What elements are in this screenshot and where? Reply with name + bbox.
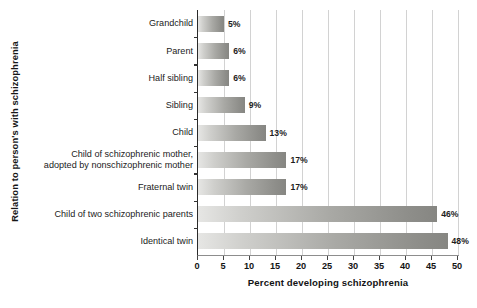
y-axis-title: Relation to person's with schizophrenia: [0, 0, 28, 262]
bar-chart: Relation to person's with schizophrenia …: [0, 0, 477, 308]
y-axis-tick: [194, 64, 198, 65]
bar: [198, 179, 286, 195]
bar-value-label: 6%: [233, 70, 245, 86]
category-label: Fraternal twin: [30, 182, 193, 192]
x-axis-tick-labels: 05101520253035404550: [0, 261, 477, 275]
x-axis-tick: [197, 256, 198, 260]
y-axis-title-text: Relation to person's with schizophrenia: [9, 41, 20, 222]
y-axis-tick: [194, 173, 198, 174]
category-label-list: GrandchildParentHalf siblingSiblingChild…: [30, 10, 193, 255]
bar-value-label: 46%: [441, 206, 458, 222]
bar: [198, 97, 245, 113]
bar-value-label: 6%: [233, 43, 245, 59]
bar-value-label: 9%: [249, 97, 261, 113]
x-axis-tick: [457, 256, 458, 260]
y-axis-tick: [194, 92, 198, 93]
bar: [198, 233, 448, 249]
x-axis-tick: [379, 256, 380, 260]
bar: [198, 125, 266, 141]
category-label: Sibling: [30, 100, 193, 110]
plot-area: 5%6%6%9%13%17%17%46%48%: [197, 10, 459, 256]
bar: [198, 43, 229, 59]
bar: [198, 206, 437, 222]
category-label: Child of schizophrenic mother, adopted b…: [30, 149, 193, 170]
category-label: Child of two schizophrenic parents: [30, 209, 193, 219]
category-label: Identical twin: [30, 236, 193, 246]
category-label: Parent: [30, 46, 193, 56]
x-axis-tick: [249, 256, 250, 260]
y-axis-tick: [194, 201, 198, 202]
category-label: Child: [30, 127, 193, 137]
y-axis-tick: [194, 146, 198, 147]
y-axis-tick: [194, 37, 198, 38]
x-axis-tick: [327, 256, 328, 260]
bar: [198, 152, 286, 168]
x-axis-tick: [223, 256, 224, 260]
x-axis-tick: [405, 256, 406, 260]
y-axis-tick: [194, 228, 198, 229]
x-axis-title: Percent developing schizophrenia: [197, 277, 459, 288]
bar-value-label: 13%: [270, 125, 287, 141]
x-axis-tick-label: 50: [442, 261, 472, 271]
bar-value-label: 5%: [228, 16, 240, 32]
x-axis-tick: [301, 256, 302, 260]
category-label: Grandchild: [30, 18, 193, 28]
bar-value-label: 48%: [452, 233, 469, 249]
x-axis-tick: [353, 256, 354, 260]
bar: [198, 16, 224, 32]
bar: [198, 70, 229, 86]
x-axis-tick: [431, 256, 432, 260]
bar-value-label: 17%: [290, 152, 307, 168]
x-axis-tick: [275, 256, 276, 260]
y-axis-tick: [194, 119, 198, 120]
bar-value-label: 17%: [290, 179, 307, 195]
category-label: Half sibling: [30, 73, 193, 83]
